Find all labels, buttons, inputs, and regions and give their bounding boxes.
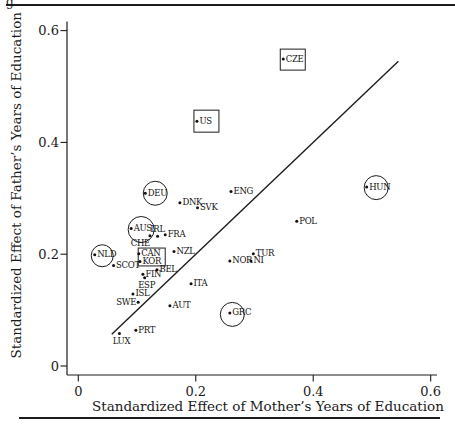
point-dot-SCOT bbox=[112, 264, 115, 267]
point-label-KOR: KOR bbox=[142, 257, 161, 266]
point-label-FIN: FIN bbox=[145, 270, 161, 279]
bottom-rule bbox=[19, 417, 440, 419]
y-tick-label-0: 0 bbox=[25, 359, 59, 374]
point-dot-POL bbox=[295, 220, 298, 223]
point-dot-ITA bbox=[190, 282, 193, 285]
point-dot-CZE bbox=[282, 58, 285, 61]
point-label-NLD: NLD bbox=[97, 250, 116, 259]
point-label-POL: POL bbox=[299, 217, 316, 226]
point-dot-DEU bbox=[144, 192, 147, 195]
point-label-IRL: IRL bbox=[138, 225, 178, 234]
y-axis-title: Standardized Effect of Father’s Years of… bbox=[9, 39, 24, 359]
point-label-SWE: SWE bbox=[76, 298, 136, 307]
point-label-US: US bbox=[199, 117, 211, 126]
point-dot-GRC bbox=[228, 311, 231, 314]
point-label-HUN: HUN bbox=[369, 183, 390, 192]
point-dot-FIN bbox=[141, 273, 144, 276]
x-tick-label-0: 0 bbox=[58, 384, 98, 399]
point-label-CHE: CHE bbox=[90, 239, 150, 248]
y-tick-label-0.4: 0.4 bbox=[25, 135, 59, 150]
x-tick-label-0.6: 0.6 bbox=[411, 384, 451, 399]
point-dot-US bbox=[195, 120, 198, 123]
point-label-DEU: DEU bbox=[148, 189, 167, 198]
point-dot-DNK bbox=[178, 201, 181, 204]
point-dot-NZL bbox=[173, 250, 176, 253]
point-label-GRC: GRC bbox=[232, 308, 251, 317]
point-label-PRT: PRT bbox=[138, 326, 155, 335]
point-dot-NLD bbox=[93, 253, 96, 256]
point-dot-IRL bbox=[156, 235, 159, 238]
y-tick-label-0.6: 0.6 bbox=[25, 23, 59, 38]
x-tick-label-0.2: 0.2 bbox=[176, 384, 216, 399]
point-label-ISL: ISL bbox=[135, 289, 149, 298]
point-dot-CHE bbox=[148, 234, 151, 237]
point-dot-SWE bbox=[137, 301, 140, 304]
point-label-ITA: ITA bbox=[194, 279, 208, 288]
point-label-NI: NI bbox=[253, 256, 263, 265]
point-label-ENG: ENG bbox=[233, 187, 253, 196]
point-label-SCOT: SCOT bbox=[116, 261, 140, 270]
point-dot-ISL bbox=[131, 292, 134, 295]
point-label-BEL: BEL bbox=[159, 265, 176, 274]
point-dot-AUS bbox=[130, 227, 133, 230]
y-tick-label-0.2: 0.2 bbox=[25, 247, 59, 262]
point-dot-AUT bbox=[168, 304, 171, 307]
point-dot-NOR bbox=[228, 259, 231, 262]
point-label-NZL: NZL bbox=[177, 247, 195, 256]
point-dot-ENG bbox=[229, 190, 232, 193]
point-label-SVK: SVK bbox=[200, 203, 217, 212]
point-label-AUT: AUT bbox=[172, 301, 190, 310]
point-dot-CAN bbox=[137, 252, 140, 255]
point-label-NOR: NOR bbox=[232, 256, 252, 265]
point-dot-PRT bbox=[134, 329, 137, 332]
x-axis-title: Standardized Effect of Mother’s Years of… bbox=[92, 399, 412, 414]
point-label-LUX: LUX bbox=[101, 337, 141, 346]
x-tick-label-0.4: 0.4 bbox=[293, 384, 333, 399]
point-dot-HUN bbox=[365, 186, 368, 189]
point-dot-LUX bbox=[118, 332, 121, 335]
point-label-CZE: CZE bbox=[286, 55, 304, 64]
scatter-plot-canvas bbox=[0, 0, 455, 431]
